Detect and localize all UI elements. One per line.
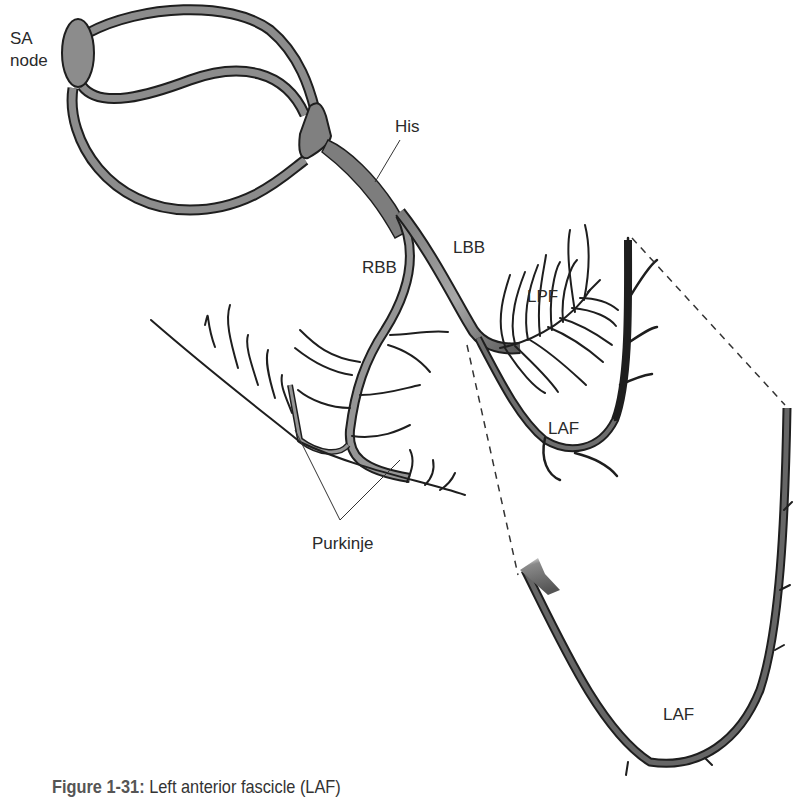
sa-node: [62, 19, 94, 87]
laf-enlarged: [520, 408, 792, 775]
label-lbb: LBB: [453, 238, 485, 257]
label-purkinje: Purkinje: [312, 534, 373, 553]
label-his: His: [395, 117, 420, 136]
purkinje-fibers: [151, 305, 465, 495]
label-laf-lower: LAF: [663, 705, 694, 724]
internodal-pathways: [72, 10, 315, 210]
left-posterior-fascicle: [500, 225, 618, 393]
his-bundle: [322, 140, 410, 238]
label-sa-node-2: node: [10, 51, 48, 70]
label-laf-upper: LAF: [548, 419, 579, 438]
figure-caption-text: Left anterior fascicle (LAF): [145, 776, 341, 797]
label-sa-node-1: SA: [10, 29, 33, 48]
conduction-system-diagram: SA node His RBB LBB LPF LAF LAF Purkinje: [0, 0, 806, 799]
figure-number: Figure 1-31:: [52, 776, 145, 797]
left-bundle-branch: [400, 212, 628, 448]
figure-caption: Figure 1-31: Left anterior fascicle (LAF…: [52, 776, 341, 798]
label-rbb: RBB: [362, 258, 397, 277]
label-lpf: LPF: [527, 287, 558, 306]
